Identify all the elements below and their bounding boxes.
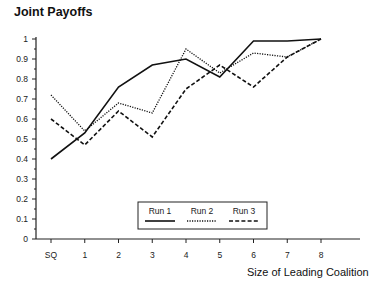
series-line-run-2 — [51, 39, 321, 131]
y-tick-label: 0.9 — [16, 54, 28, 64]
series-line-run-3 — [51, 39, 321, 145]
y-tick-label: 0.2 — [16, 194, 28, 204]
x-axis-label: Size of Leading Coalition — [247, 266, 369, 278]
x-tick-label: 2 — [116, 250, 121, 260]
line-chart: 00.10.20.30.40.50.60.70.80.91SQ12345678R… — [0, 0, 375, 295]
legend-label-run-2: Run 2 — [191, 206, 214, 216]
x-tick-label: 6 — [251, 250, 256, 260]
x-tick-label: 8 — [319, 250, 324, 260]
x-tick-label: SQ — [45, 250, 58, 260]
x-tick-label: 4 — [184, 250, 189, 260]
legend-label-run-3: Run 3 — [233, 206, 256, 216]
series-line-run-1 — [51, 39, 321, 159]
y-tick-label: 0.6 — [16, 114, 28, 124]
y-tick-label: 0.7 — [16, 94, 28, 104]
y-tick-label: 0.4 — [16, 154, 28, 164]
legend-label-run-1: Run 1 — [149, 206, 172, 216]
y-tick-label: 1 — [23, 34, 28, 44]
y-tick-label: 0.8 — [16, 74, 28, 84]
y-tick-label: 0.3 — [16, 174, 28, 184]
y-tick-label: 0 — [23, 234, 28, 244]
y-tick-label: 0.1 — [16, 214, 28, 224]
y-tick-label: 0.5 — [16, 134, 28, 144]
x-tick-label: 3 — [150, 250, 155, 260]
x-tick-label: 1 — [82, 250, 87, 260]
x-tick-label: 5 — [217, 250, 222, 260]
x-tick-label: 7 — [285, 250, 290, 260]
